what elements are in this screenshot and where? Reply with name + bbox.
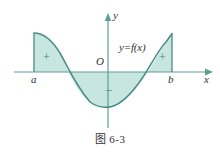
- y-axis-label: y: [113, 10, 118, 21]
- axis-label-b: b: [168, 74, 174, 85]
- sign-minus: −: [105, 84, 112, 97]
- figure-caption: 图 6-3: [0, 130, 220, 146]
- sign-plus-right: +: [159, 51, 166, 63]
- x-axis-label: x: [204, 74, 209, 85]
- y-axis-arrowhead: [105, 13, 112, 21]
- shaded-area-positive-left: [34, 33, 69, 72]
- axis-label-a: a: [31, 74, 37, 85]
- curve-equation-label: y=f(x): [119, 42, 145, 53]
- figure-container: a b O x y y=f(x) + + − 图 6-3: [0, 0, 220, 153]
- sign-plus-left: +: [43, 51, 50, 63]
- origin-label: O: [96, 56, 104, 67]
